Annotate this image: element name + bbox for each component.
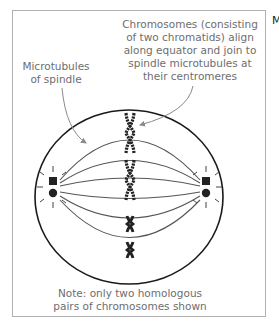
metaphase-diagram (0, 0, 279, 327)
chromosome-large (126, 160, 134, 200)
microtubules-arrow (62, 88, 86, 143)
centrosome-right-icon (193, 166, 222, 208)
chromosomes-arrow (140, 86, 193, 125)
chromosome-large (126, 113, 134, 153)
chromosome-small (127, 242, 133, 258)
